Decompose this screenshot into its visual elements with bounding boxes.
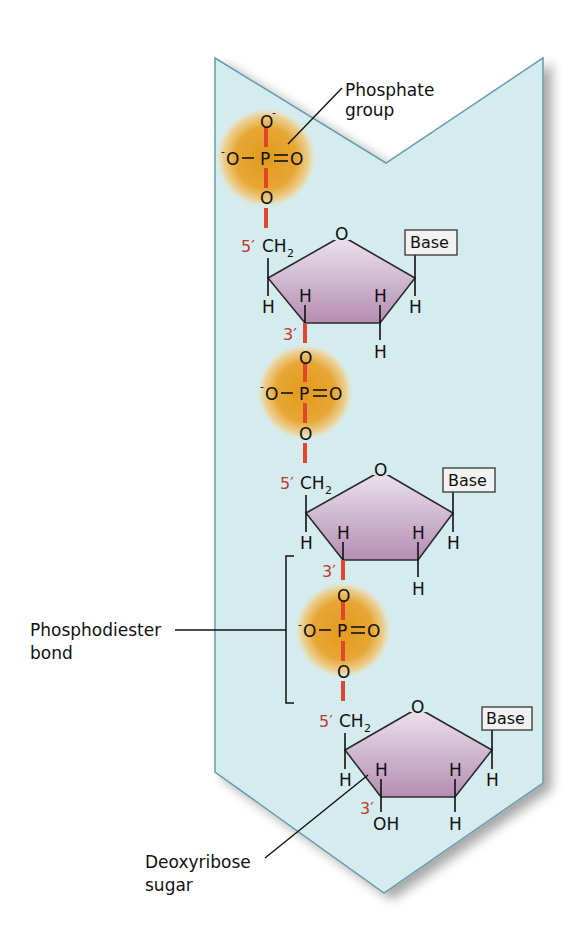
svg-text:H: H <box>374 342 387 362</box>
svg-text:2: 2 <box>287 247 294 260</box>
svg-text:O: O <box>337 586 350 606</box>
svg-text:Phosphate: Phosphate <box>345 80 434 100</box>
svg-text:O: O <box>303 621 316 641</box>
svg-text:H: H <box>412 523 425 543</box>
svg-text:O: O <box>265 384 278 404</box>
five-prime-label: 5′ <box>241 237 255 256</box>
svg-text:H: H <box>449 814 462 834</box>
three-prime-label: 3′ <box>283 325 297 344</box>
svg-text:O: O <box>299 424 312 444</box>
svg-text:H: H <box>449 760 462 780</box>
ring-oxygen: O <box>335 224 348 244</box>
base-1: Base <box>405 230 457 255</box>
svg-text:5′: 5′ <box>319 712 333 731</box>
svg-text:3′: 3′ <box>360 799 374 818</box>
svg-text:H: H <box>262 297 275 317</box>
svg-text:-: - <box>298 618 302 631</box>
svg-text:sugar: sugar <box>145 875 193 895</box>
svg-text:2: 2 <box>325 484 332 497</box>
svg-text:O: O <box>367 621 380 641</box>
svg-text:H: H <box>375 760 388 780</box>
dna-backbone-diagram: O - - O P O O Phosphate group 5′ CH 2 O … <box>0 0 585 935</box>
svg-text:Base: Base <box>410 233 449 252</box>
negative-charge: - <box>221 145 225 158</box>
svg-text:CH: CH <box>300 473 325 493</box>
svg-text:Deoxyribose: Deoxyribose <box>145 852 251 872</box>
svg-text:H: H <box>339 770 352 790</box>
svg-text:Phosphodiester: Phosphodiester <box>30 620 161 640</box>
svg-text:H: H <box>409 297 422 317</box>
svg-text:P: P <box>337 621 347 641</box>
svg-text:H: H <box>486 770 499 790</box>
svg-text:Base: Base <box>486 709 525 728</box>
svg-text:H: H <box>374 286 387 306</box>
negative-charge: - <box>272 106 276 119</box>
phosphorus-atom: P <box>260 149 270 169</box>
svg-text:H: H <box>300 533 313 553</box>
svg-text:H: H <box>447 533 460 553</box>
svg-text:O: O <box>411 697 424 717</box>
oxygen-atom: O <box>226 149 239 169</box>
oxygen-atom: O <box>290 149 303 169</box>
svg-text:2: 2 <box>364 722 371 735</box>
svg-text:O: O <box>329 384 342 404</box>
hydroxyl-group: OH <box>373 814 399 834</box>
svg-text:5′: 5′ <box>280 474 294 493</box>
svg-text:Base: Base <box>448 471 487 490</box>
svg-text:O: O <box>374 460 387 480</box>
svg-text:H: H <box>299 286 312 306</box>
base-3: Base <box>482 707 532 730</box>
svg-text:bond: bond <box>30 643 73 663</box>
svg-text:3′: 3′ <box>322 562 336 581</box>
svg-text:group: group <box>345 100 394 120</box>
base-2: Base <box>443 468 495 492</box>
svg-text:H: H <box>412 579 425 599</box>
svg-text:O: O <box>337 662 350 682</box>
svg-text:CH: CH <box>339 711 364 731</box>
svg-text:P: P <box>299 384 309 404</box>
oxygen-atom: O <box>260 188 273 208</box>
svg-text:CH: CH <box>262 236 287 256</box>
svg-text:H: H <box>337 523 350 543</box>
svg-text:-: - <box>260 380 264 393</box>
svg-text:O: O <box>299 348 312 368</box>
